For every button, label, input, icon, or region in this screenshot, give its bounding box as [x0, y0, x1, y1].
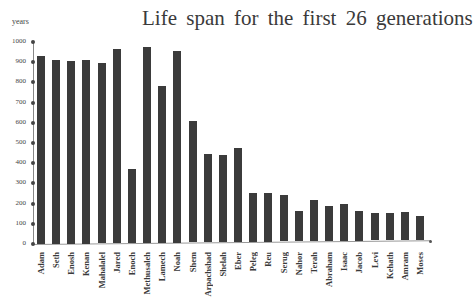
x-category-label: Kehath: [385, 252, 395, 279]
y-tick-mark: [31, 80, 35, 84]
x-category-label: Abraham: [324, 252, 334, 287]
bar-lamech: [158, 86, 166, 243]
y-tick-mark: [31, 161, 35, 165]
x-category-label: Isaac: [339, 252, 349, 271]
y-tick-label: 700: [0, 98, 26, 106]
y-tick-label: 0: [0, 239, 26, 247]
x-category-label: Serug: [279, 252, 289, 273]
x-category-label: Seth: [51, 252, 61, 268]
x-category-label: Levi: [370, 252, 380, 268]
bar-adam: [37, 56, 45, 244]
bar-moses: [416, 216, 424, 240]
bar-eber: [234, 148, 242, 242]
x-category-label: Eber: [233, 252, 243, 270]
x-category-label: Kenan: [81, 252, 91, 276]
y-tick-mark: [31, 242, 35, 246]
x-category-label: Noah: [172, 252, 182, 271]
y-tick-mark: [31, 181, 35, 185]
bar-arpachshad: [204, 154, 212, 242]
y-tick-label: 100: [0, 219, 26, 227]
x-category-label: Shelah: [218, 252, 228, 277]
bar-reu: [264, 193, 272, 241]
x-category-label: Lamech: [157, 252, 167, 281]
bar-jared: [113, 49, 121, 243]
bar-peleg: [249, 193, 257, 241]
bar-levi: [371, 213, 379, 241]
y-tick-mark: [31, 141, 35, 145]
x-category-label: Jared: [112, 252, 122, 273]
y-tick-label: 600: [0, 118, 26, 126]
x-axis-end-marker: [429, 240, 432, 243]
bar-mahalalel: [98, 63, 106, 244]
bar-shelah: [219, 155, 227, 242]
bar-enoch: [128, 169, 136, 243]
y-tick-label: 300: [0, 178, 26, 186]
bar-amram: [401, 212, 409, 240]
x-category-label: Peleg: [248, 252, 258, 271]
x-category-label: Reu: [263, 252, 273, 267]
x-category-label: Amram: [400, 252, 410, 280]
bar-jacob: [355, 211, 363, 241]
bar-terah: [310, 200, 318, 241]
bar-kenan: [82, 60, 90, 244]
bar-nahor: [295, 211, 303, 241]
y-tick-label: 400: [0, 158, 26, 166]
x-category-label: Jacob: [354, 252, 364, 273]
x-category-label: Mahalalel: [97, 252, 107, 288]
y-tick-mark: [31, 222, 35, 226]
x-category-label: Terah: [309, 252, 319, 273]
x-category-label: Arpachshad: [203, 252, 213, 296]
bar-isaac: [340, 204, 348, 240]
x-category-label: Adam: [36, 252, 46, 274]
x-category-label: Enoch: [127, 252, 137, 275]
bar-methusaleh: [143, 47, 151, 243]
y-axis-label: years: [12, 17, 29, 26]
x-category-label: Moses: [415, 252, 425, 275]
x-category-label: Methusaleh: [142, 252, 152, 295]
y-tick-mark: [31, 60, 35, 64]
bar-enosh: [67, 61, 75, 244]
x-category-label: Nahor: [294, 252, 304, 275]
y-tick-label: 800: [0, 77, 26, 85]
y-tick-mark: [31, 202, 35, 206]
chart-title: Life span for the first 26 generations: [142, 6, 473, 31]
y-tick-mark: [31, 40, 35, 44]
y-tick-label: 200: [0, 199, 26, 207]
y-tick-mark: [31, 121, 35, 125]
y-tick-label: 500: [0, 138, 26, 146]
bar-shem: [189, 121, 197, 242]
bar-serug: [280, 195, 288, 241]
bar-abraham: [325, 206, 333, 241]
y-tick-label: 900: [0, 57, 26, 65]
x-category-label: Enosh: [66, 252, 76, 275]
y-tick-label: 1000: [0, 37, 26, 45]
x-axis-line: [33, 240, 431, 245]
bar-kehath: [386, 213, 394, 240]
x-category-label: Shem: [188, 252, 198, 272]
y-tick-mark: [31, 101, 35, 105]
bar-seth: [52, 60, 60, 244]
bar-noah: [173, 51, 181, 243]
